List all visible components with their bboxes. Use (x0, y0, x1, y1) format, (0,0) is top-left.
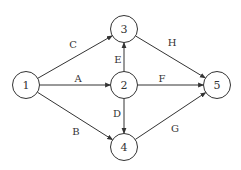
edge-label-c: C (69, 39, 77, 50)
edge-label-d: D (113, 108, 121, 119)
edge-label-e: E (114, 54, 121, 65)
node-label: 3 (121, 23, 128, 36)
edge-label-g: G (171, 123, 179, 134)
node-label: 5 (214, 79, 221, 92)
edge-label-h: H (168, 37, 177, 48)
nodes-group: 12345 (13, 16, 231, 161)
node-1: 1 (13, 72, 40, 99)
node-4: 4 (111, 134, 138, 161)
edge-label-f: F (159, 73, 166, 84)
node-label: 4 (121, 141, 128, 154)
edge-label-a: A (73, 73, 82, 84)
node-3: 3 (111, 16, 138, 43)
node-label: 1 (23, 79, 30, 92)
node-5: 5 (204, 72, 231, 99)
edge-label-b: B (72, 126, 79, 137)
node-label: 2 (121, 79, 128, 92)
node-2: 2 (111, 72, 138, 99)
network-diagram: ABCDEFGH 12345 (0, 0, 241, 170)
